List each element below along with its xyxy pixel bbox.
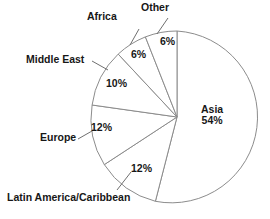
pie-label-africa-name: Africa [87, 11, 117, 22]
leader-line-middle-east [92, 61, 108, 70]
pie-label-asia: Asia 54% [201, 104, 223, 127]
pie-label-europe-value: 12% [91, 122, 112, 133]
pie-label-middle-east-name: Middle East [26, 54, 84, 65]
pie-chart: Asia 54% Other 6% Africa 6% Middle East … [0, 0, 270, 219]
pie-label-europe-name: Europe [40, 132, 76, 143]
pie-label-latin-america-name: Latin America/Caribbean [7, 192, 130, 203]
pie-label-latin-america-value: 12% [131, 163, 152, 174]
pie-chart-canvas [0, 0, 270, 219]
pie-label-middle-east-value: 10% [106, 78, 127, 89]
pie-label-other-name: Other [141, 2, 169, 13]
pie-label-asia-value: 54% [201, 115, 223, 126]
pie-label-other-value: 6% [160, 36, 175, 47]
pie-label-africa-value: 6% [131, 49, 146, 60]
leader-line-europe [78, 131, 92, 139]
